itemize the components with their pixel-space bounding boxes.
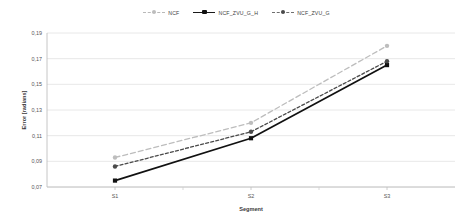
y-tick-label: 0,15 <box>32 81 43 87</box>
x-tick-label: S3 <box>384 193 391 199</box>
plot-area: 0,070,090,110,130,150,170,19S1S2S3Error … <box>0 0 473 215</box>
data-point <box>249 121 253 125</box>
data-point <box>249 130 253 134</box>
chart-container: NCF NCF_ZVU_G_H NCF_ZVU_G 0,070,090,110,… <box>0 0 473 215</box>
y-tick-label: 0,17 <box>32 56 43 62</box>
data-point <box>385 59 389 63</box>
data-point <box>113 164 117 168</box>
series-line-ncf <box>115 46 387 158</box>
y-axis-title: Error [radians] <box>21 90 27 129</box>
data-point <box>385 44 389 48</box>
x-axis-title: Segment <box>239 206 263 212</box>
plot-svg: 0,070,090,110,130,150,170,19S1S2S3Error … <box>0 0 473 215</box>
data-point <box>385 63 389 67</box>
data-point <box>113 178 117 182</box>
y-tick-label: 0,07 <box>32 184 43 190</box>
x-tick-label: S1 <box>112 193 119 199</box>
series-line-ncf-zvu-g <box>115 61 387 166</box>
y-tick-label: 0,11 <box>32 133 42 139</box>
data-point <box>249 136 253 140</box>
y-tick-label: 0,13 <box>32 107 43 113</box>
y-tick-label: 0,19 <box>32 30 43 36</box>
x-tick-label: S2 <box>248 193 255 199</box>
data-point <box>113 155 117 159</box>
y-tick-label: 0,09 <box>32 158 43 164</box>
